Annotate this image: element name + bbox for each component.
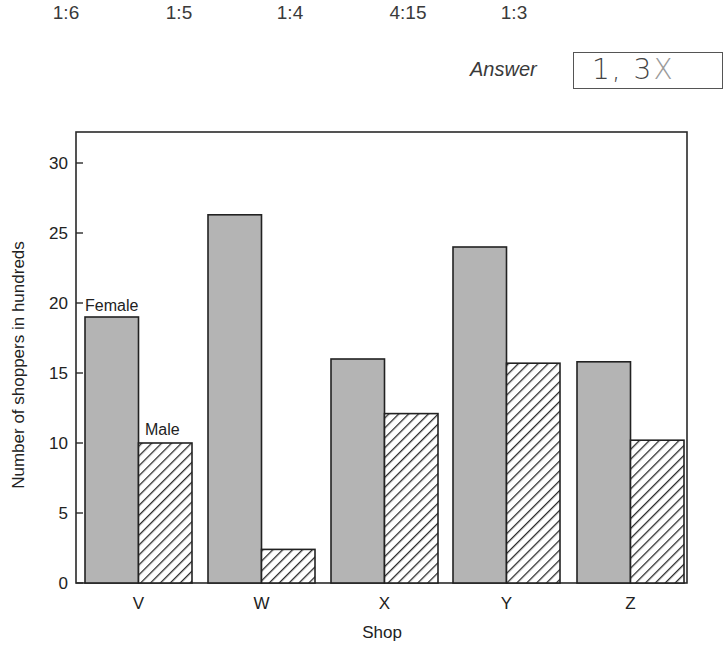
y-tick-label: 20	[49, 294, 68, 313]
y-axis-title: Number of shoppers in hundreds	[9, 241, 28, 489]
x-axis: VWXYZ	[133, 594, 636, 613]
bar-female-x	[331, 359, 385, 583]
bar-male-x	[385, 414, 439, 583]
bar-female-w	[208, 215, 262, 583]
y-tick-label: 15	[49, 364, 68, 383]
bar-male-y	[507, 363, 561, 583]
y-tick-label: 5	[59, 504, 68, 523]
y-tick-label: 0	[59, 574, 68, 593]
x-tick-label: Z	[625, 594, 635, 613]
bar-male-w	[262, 549, 316, 583]
y-tick-label: 30	[49, 154, 68, 173]
bars	[85, 215, 684, 583]
bar-male-z	[631, 440, 685, 583]
female-series-label: Female	[85, 297, 138, 314]
x-tick-label: V	[133, 594, 145, 613]
x-axis-title: Shop	[362, 623, 402, 642]
bar-female-y	[453, 247, 507, 583]
x-tick-label: W	[253, 594, 269, 613]
male-series-label: Male	[145, 421, 180, 438]
x-tick-label: Y	[501, 594, 512, 613]
x-tick-label: X	[379, 594, 390, 613]
y-tick-label: 25	[49, 224, 68, 243]
bar-male-v	[139, 443, 193, 583]
bar-female-v	[85, 317, 139, 583]
y-tick-label: 10	[49, 434, 68, 453]
y-axis: 051015202530	[49, 154, 83, 593]
bar-female-z	[577, 362, 631, 583]
